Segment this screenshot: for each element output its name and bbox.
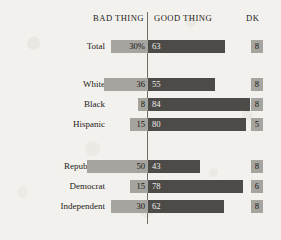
- value-good-thing: 62: [152, 200, 161, 213]
- row-label: Black: [84, 98, 105, 111]
- bar-good-thing: [148, 118, 246, 131]
- table-row: Hispanic15805: [0, 118, 281, 131]
- value-good-thing: 43: [152, 160, 161, 173]
- table-row: Democrat15786: [0, 180, 281, 193]
- value-good-thing: 78: [152, 180, 161, 193]
- value-bad-thing: 30: [136, 200, 145, 213]
- value-bad-thing: 50: [136, 160, 145, 173]
- value-dk: 8: [251, 78, 263, 91]
- value-good-thing: 84: [152, 98, 161, 111]
- column-header-bad-thing: BAD THING: [93, 13, 144, 23]
- column-header-good-thing: GOOD THING: [154, 13, 212, 23]
- value-bad-thing: 15: [136, 118, 145, 131]
- table-row: Black8848: [0, 98, 281, 111]
- value-dk: 8: [251, 40, 263, 53]
- table-row: White36558: [0, 78, 281, 91]
- table-row: Independent30628: [0, 200, 281, 213]
- value-bad-thing: 8: [141, 98, 145, 111]
- table-row: Total30%638: [0, 40, 281, 53]
- value-dk: 8: [251, 200, 263, 213]
- value-dk: 8: [251, 98, 263, 111]
- value-dk: 5: [251, 118, 263, 131]
- table-row: Republican50438: [0, 160, 281, 173]
- bar-good-thing: [148, 180, 243, 193]
- row-label: Democrat: [70, 180, 105, 193]
- bar-good-thing: [148, 98, 250, 111]
- value-bad-thing: 36: [136, 78, 145, 91]
- value-bad-thing: 30%: [129, 40, 145, 53]
- value-dk: 8: [251, 160, 263, 173]
- row-label: White: [83, 78, 105, 91]
- row-label: Independent: [61, 200, 105, 213]
- value-good-thing: 80: [152, 118, 161, 131]
- column-header-dk: DK: [246, 13, 259, 23]
- value-bad-thing: 15: [136, 180, 145, 193]
- row-label: Total: [87, 40, 105, 53]
- diverging-bar-chart: BAD THING GOOD THING DK Total30%638White…: [0, 0, 281, 240]
- value-good-thing: 63: [152, 40, 161, 53]
- value-good-thing: 55: [152, 78, 161, 91]
- row-label: Hispanic: [73, 118, 105, 131]
- value-dk: 6: [251, 180, 263, 193]
